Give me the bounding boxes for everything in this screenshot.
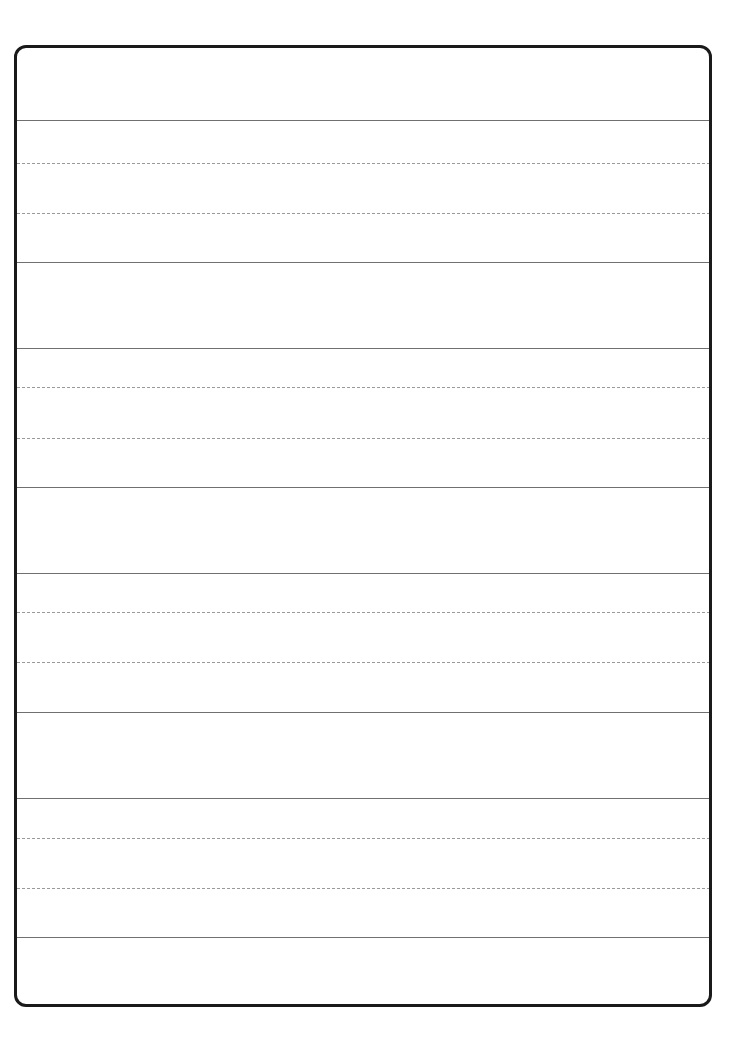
ruled-lines-layer — [17, 48, 709, 1004]
writing-row-1-midline-2 — [17, 213, 709, 214]
writing-row-3-midline-2 — [17, 662, 709, 663]
writing-row-3-midline-1 — [17, 612, 709, 613]
writing-row-4-midline-1 — [17, 838, 709, 839]
worksheet-page — [0, 0, 745, 1044]
writing-row-4-midline-2 — [17, 888, 709, 889]
writing-row-4-top — [17, 798, 709, 799]
writing-row-2-baseline — [17, 487, 709, 488]
writing-row-3-baseline — [17, 712, 709, 713]
writing-row-1-top — [17, 120, 709, 121]
writing-row-2-midline-1 — [17, 387, 709, 388]
writing-row-1-baseline — [17, 262, 709, 263]
writing-row-1-midline-1 — [17, 163, 709, 164]
worksheet-border — [14, 45, 712, 1007]
writing-row-3-top — [17, 573, 709, 574]
writing-row-2-midline-2 — [17, 438, 709, 439]
writing-row-4-baseline — [17, 937, 709, 938]
writing-row-2-top — [17, 348, 709, 349]
